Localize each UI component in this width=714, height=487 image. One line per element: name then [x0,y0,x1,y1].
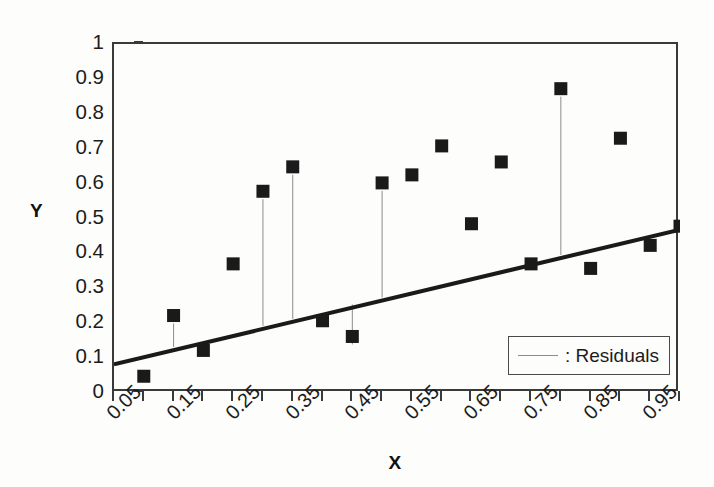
data-point-marker [227,257,240,270]
y-tick-label: 0.6 [48,171,104,192]
y-tick-label: 0.2 [48,311,104,332]
data-point-marker [286,160,299,173]
y-tick-label: 0.7 [48,136,104,157]
x-axis-title-text: X [388,452,401,473]
data-point-marker [554,82,567,95]
y-tick-label: 0.5 [48,206,104,227]
y-tick-label: 0.8 [48,102,104,123]
scatter-plot-figure: 00.10.20.30.40.50.60.70.80.91 Y 0.050.15… [0,0,714,487]
data-point-marker [405,168,418,181]
y-axis-title: Y [30,200,43,222]
x-axis-title: X [0,452,714,474]
data-point-marker [167,309,180,322]
data-point-marker [256,185,269,198]
data-point-marker [465,217,478,230]
data-point-marker [525,257,538,270]
legend-label: : Residuals [565,345,659,367]
data-point-marker [376,176,389,189]
data-point-marker [137,370,150,383]
data-point-marker [435,139,448,152]
y-tick-label: 1 [48,32,104,53]
y-tick-label: 0 [48,381,104,402]
residual-line-sample-icon [518,355,558,356]
data-point-marker [644,239,657,252]
data-point-marker [346,330,359,343]
data-point-marker [495,155,508,168]
y-tick-label: 0.1 [48,346,104,367]
data-point-marker [316,314,329,327]
data-point-marker [674,220,681,233]
y-tick-label: 0.9 [48,67,104,88]
legend-box: : Residuals [508,336,670,375]
data-point-marker [584,262,597,275]
data-point-marker [197,344,210,357]
y-tick-label: 0.3 [48,276,104,297]
data-point-marker [614,132,627,145]
y-tick-label: 0.4 [48,241,104,262]
